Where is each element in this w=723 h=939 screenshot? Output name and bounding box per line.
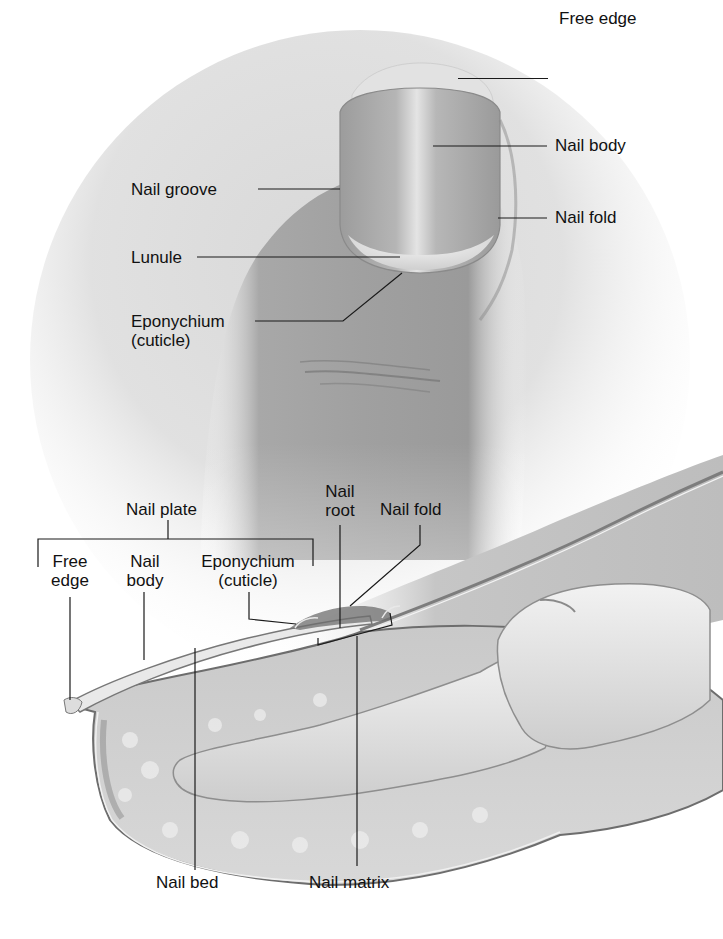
nail-anatomy-figure: Free edge Nail body Nail fold Nail groov… bbox=[0, 0, 723, 939]
label-nail-fold-surface: Nail fold bbox=[555, 208, 616, 227]
label-nail-body-line2: body bbox=[120, 571, 170, 590]
label-eponychium-line2: (cuticle) bbox=[131, 331, 225, 350]
label-nail-root-line2: root bbox=[315, 501, 365, 520]
label-nail-root-line1: Nail bbox=[315, 482, 365, 501]
label-nail-body-line1: Nail bbox=[120, 552, 170, 571]
label-free-edge-surface: Free edge bbox=[559, 9, 637, 28]
nail-body-shape bbox=[340, 88, 500, 273]
label-nail-bed: Nail bed bbox=[156, 873, 218, 892]
label-eponychium-section-line1: Eponychium bbox=[188, 552, 308, 571]
label-eponychium-section-line2: (cuticle) bbox=[188, 571, 308, 590]
label-free-edge-section: Free edge bbox=[45, 552, 95, 590]
label-lunule: Lunule bbox=[131, 248, 182, 267]
label-free-edge-line1: Free bbox=[45, 552, 95, 571]
label-eponychium-surface: Eponychium (cuticle) bbox=[131, 312, 225, 350]
label-nail-body-surface: Nail body bbox=[555, 136, 626, 155]
label-eponychium-line1: Eponychium bbox=[131, 312, 225, 331]
label-nail-root: Nail root bbox=[315, 482, 365, 520]
label-nail-body-section: Nail body bbox=[120, 552, 170, 590]
label-nail-fold-section: Nail fold bbox=[380, 500, 441, 519]
label-free-edge-line2: edge bbox=[45, 571, 95, 590]
label-eponychium-section: Eponychium (cuticle) bbox=[188, 552, 308, 590]
label-nail-plate: Nail plate bbox=[126, 500, 197, 519]
label-nail-groove: Nail groove bbox=[131, 180, 217, 199]
label-nail-matrix: Nail matrix bbox=[309, 873, 389, 892]
